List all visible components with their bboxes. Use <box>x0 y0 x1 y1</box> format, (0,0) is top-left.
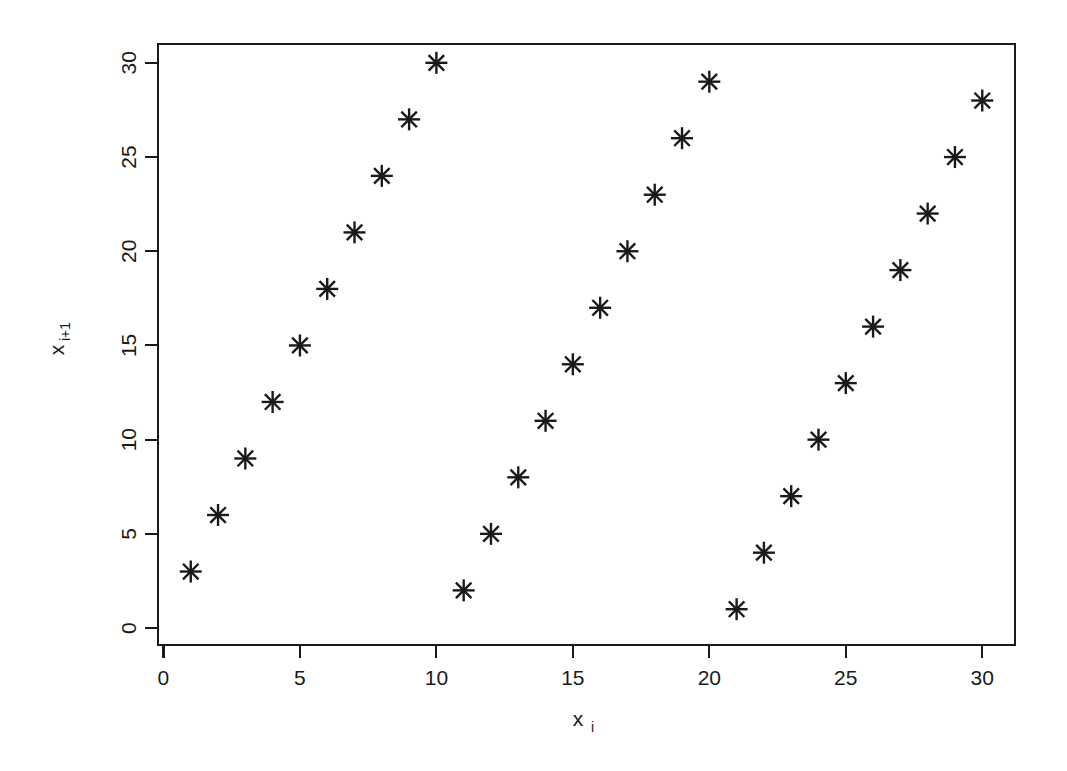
data-point-asterisk <box>753 542 775 564</box>
data-point-asterisk <box>889 259 911 281</box>
x-tick-label: 10 <box>425 666 448 689</box>
data-point-asterisk <box>644 184 666 206</box>
data-point-asterisk <box>480 523 502 545</box>
y-axis-title: x i+1 <box>45 322 73 356</box>
data-point-asterisk <box>207 504 229 526</box>
data-point-asterisk <box>371 165 393 187</box>
x-tick-label: 5 <box>294 666 306 689</box>
data-point-markers <box>180 52 993 620</box>
data-point-asterisk <box>944 146 966 168</box>
x-tick-label: 0 <box>158 666 170 689</box>
y-tick-label: 15 <box>117 334 140 357</box>
data-point-asterisk <box>535 410 557 432</box>
data-point-asterisk <box>589 297 611 319</box>
data-point-asterisk <box>807 429 829 451</box>
x-axis-tick-labels: 051015202530 <box>158 666 994 689</box>
y-tick-label: 0 <box>117 622 140 634</box>
data-point-asterisk <box>344 221 366 243</box>
x-tick-label: 30 <box>971 666 994 689</box>
data-point-asterisk <box>398 108 420 130</box>
data-point-asterisk <box>835 372 857 394</box>
data-point-asterisk <box>780 485 802 507</box>
data-point-asterisk <box>316 278 338 300</box>
data-point-asterisk <box>726 598 748 620</box>
y-axis-title-subscript: i+1 <box>57 322 73 341</box>
data-point-asterisk <box>453 579 475 601</box>
data-point-asterisk <box>289 334 311 356</box>
x-tick-label: 15 <box>561 666 584 689</box>
scatter-plot-figure: 051015202530 051015202530 x i x i+1 <box>0 0 1067 771</box>
data-point-asterisk <box>917 203 939 225</box>
x-axis-title-base: x <box>573 707 584 730</box>
plot-frame <box>158 44 1015 645</box>
data-point-asterisk <box>562 353 584 375</box>
plot-canvas: 051015202530 051015202530 x i x i+1 <box>0 0 1067 771</box>
y-tick-label: 10 <box>117 428 140 451</box>
data-point-asterisk <box>862 316 884 338</box>
data-point-asterisk <box>262 391 284 413</box>
x-tick-label: 20 <box>698 666 721 689</box>
data-point-asterisk <box>180 561 202 583</box>
y-tick-label: 30 <box>117 51 140 74</box>
x-axis-title-subscript: i <box>591 719 594 735</box>
y-tick-label: 5 <box>117 528 140 540</box>
y-tick-label: 25 <box>117 145 140 168</box>
y-axis-ticks <box>145 63 158 628</box>
x-axis-title: x i <box>573 707 594 735</box>
data-point-asterisk <box>671 127 693 149</box>
y-axis-tick-labels: 051015202530 <box>117 51 140 634</box>
data-point-asterisk <box>616 240 638 262</box>
y-tick-label: 20 <box>117 240 140 263</box>
x-axis-ticks <box>163 645 982 658</box>
data-point-asterisk <box>234 447 256 469</box>
data-point-asterisk <box>425 52 447 74</box>
data-point-asterisk <box>507 466 529 488</box>
data-point-asterisk <box>971 90 993 112</box>
y-axis-title-base: x <box>45 344 68 355</box>
x-tick-label: 25 <box>834 666 857 689</box>
data-point-asterisk <box>698 71 720 93</box>
